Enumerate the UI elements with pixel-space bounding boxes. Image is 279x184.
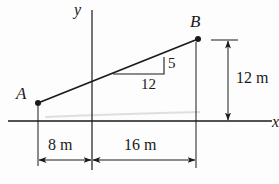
smudge [45, 112, 200, 117]
point-b-label: B [190, 13, 200, 30]
slope-rise-label: 5 [168, 56, 176, 71]
slope-triangle [113, 57, 164, 74]
point-b-marker [195, 36, 201, 42]
point-a-label: A [16, 85, 26, 102]
left-width-dimension-label: 8 m [48, 137, 72, 153]
y-axis-label: y [74, 2, 81, 18]
diagram-graphics [0, 0, 279, 184]
right-width-dimension-label: 16 m [124, 137, 156, 153]
line-ab [38, 39, 198, 103]
height-dimension-label: 12 m [236, 70, 268, 86]
slope-run-label: 12 [141, 77, 156, 92]
diagram-canvas: y x A B 5 12 12 m 8 m 16 m [0, 0, 279, 184]
point-a-marker [35, 100, 41, 106]
x-axis-label: x [272, 114, 279, 130]
